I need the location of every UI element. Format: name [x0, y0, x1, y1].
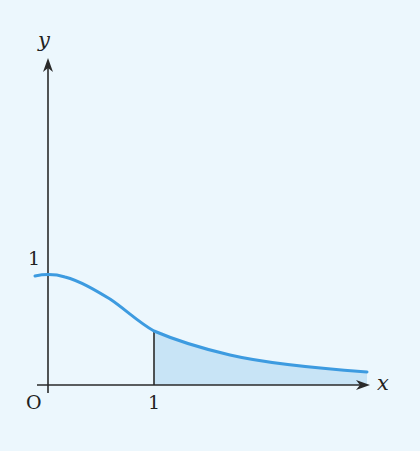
origin-label: O — [26, 391, 42, 413]
function-graph: y x O 1 1 — [0, 0, 420, 451]
x-tick-label-1: 1 — [148, 391, 160, 413]
shaded-area-region — [154, 331, 367, 385]
y-tick-label-1: 1 — [28, 247, 40, 269]
y-axis-label: y — [37, 28, 51, 52]
x-axis-label: x — [377, 371, 389, 395]
